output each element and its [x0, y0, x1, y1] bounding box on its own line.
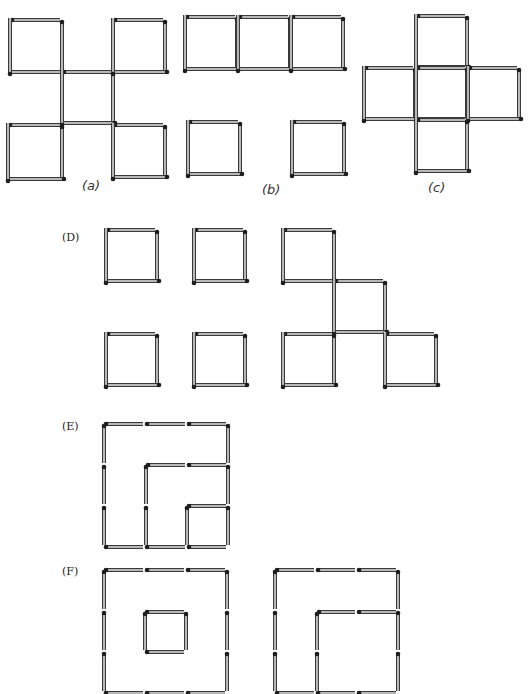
matchstick	[315, 652, 320, 691]
matchstick	[60, 125, 65, 177]
match-head	[226, 424, 231, 429]
match-head	[240, 172, 245, 177]
matchstick	[315, 612, 320, 650]
match-head	[334, 383, 339, 388]
match-head	[62, 177, 67, 182]
matchstick	[186, 568, 225, 573]
matchstick	[106, 332, 155, 337]
matchstick	[6, 123, 11, 183]
matchstick	[465, 120, 470, 169]
matchstick	[10, 18, 60, 23]
matchstick	[517, 68, 522, 117]
matchstick	[414, 118, 419, 175]
matchstick	[225, 570, 230, 609]
matchstick	[283, 228, 332, 233]
matchstick	[225, 611, 230, 650]
match-head	[102, 424, 107, 429]
matchstick	[194, 332, 243, 337]
panel-label-c: (c)	[428, 180, 445, 195]
matchstick	[185, 15, 235, 20]
matchstick	[416, 118, 465, 123]
match-head	[165, 175, 170, 180]
matchstick	[192, 228, 197, 285]
matchstick	[111, 72, 116, 121]
matchstick	[396, 652, 401, 691]
match-head	[273, 652, 278, 657]
matchstick	[187, 463, 226, 468]
match-head	[143, 612, 148, 617]
match-head	[192, 281, 197, 286]
matchstick	[102, 506, 107, 545]
matchstick	[102, 424, 107, 463]
match-head	[102, 506, 107, 511]
match-head	[165, 70, 170, 75]
matchstick	[113, 123, 163, 128]
matchstick	[291, 15, 341, 20]
matchstick	[226, 465, 231, 504]
matchstick	[332, 334, 337, 383]
matchstick	[184, 612, 189, 650]
matchstick	[111, 123, 116, 181]
matchstick	[465, 16, 470, 65]
match-head	[163, 125, 168, 130]
match-head	[225, 570, 230, 575]
matchstick	[236, 67, 294, 72]
matchstick	[383, 281, 388, 330]
matchstick	[163, 20, 168, 70]
matchstick	[357, 568, 396, 573]
match-head	[343, 67, 348, 72]
matchstick	[292, 120, 342, 125]
matchstick	[104, 545, 143, 550]
matchstick	[468, 66, 517, 71]
match-head	[362, 119, 367, 124]
matchstick	[290, 172, 348, 177]
matchstick	[183, 15, 188, 73]
matchstick	[104, 279, 161, 284]
matchstick	[281, 332, 286, 389]
match-head	[396, 611, 401, 616]
matchstick	[273, 570, 278, 609]
match-head	[102, 570, 107, 575]
match-head	[192, 385, 197, 390]
matchstick	[357, 610, 396, 615]
matchstick	[238, 15, 288, 20]
matchstick	[362, 66, 367, 123]
match-head	[245, 383, 250, 388]
matchstick	[273, 652, 278, 691]
match-head	[8, 72, 13, 77]
matchstick	[144, 465, 149, 504]
matchstick	[104, 332, 109, 389]
matchstick	[8, 18, 13, 76]
matchstick	[102, 570, 107, 609]
matchstick	[104, 422, 143, 427]
match-head	[6, 179, 11, 184]
matchstick	[104, 568, 143, 573]
matchstick	[60, 121, 117, 126]
match-head	[243, 230, 248, 235]
match-head	[342, 122, 347, 127]
matchstick	[362, 117, 419, 122]
match-head	[185, 506, 190, 511]
matchstick	[8, 123, 60, 128]
match-head	[344, 172, 349, 177]
match-head	[315, 652, 320, 657]
matchstick	[62, 70, 111, 75]
matchstick	[187, 545, 226, 550]
matchstick	[226, 506, 231, 545]
matchstick	[192, 279, 249, 284]
matchstick	[106, 228, 155, 233]
matchstick	[145, 545, 185, 550]
matchstick	[226, 424, 231, 463]
match-head	[436, 383, 441, 388]
matchstick	[434, 334, 439, 383]
matchstick	[183, 67, 241, 72]
match-head	[414, 171, 419, 176]
matchstick	[364, 66, 413, 71]
match-head	[226, 506, 231, 511]
matchstick	[102, 465, 107, 504]
matchstick	[60, 20, 65, 70]
match-head	[184, 612, 189, 617]
matchstick	[143, 612, 148, 650]
matchstick	[111, 175, 169, 180]
matchstick	[289, 15, 294, 73]
